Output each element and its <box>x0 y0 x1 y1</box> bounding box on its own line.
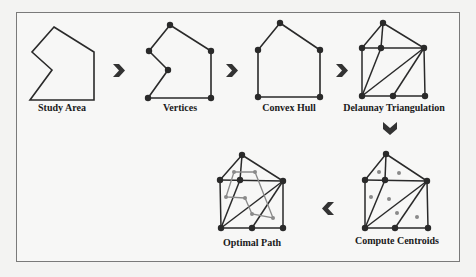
delaunay-shape <box>359 20 428 99</box>
chevron-right-icon <box>226 64 238 77</box>
vertices-shape <box>145 22 214 101</box>
convex-hull-shape <box>255 20 323 100</box>
centroids-shape <box>362 151 431 231</box>
step-label-convex-hull: Convex Hull <box>262 102 316 113</box>
centroid-points <box>369 170 419 219</box>
step-label-centroids: Compute Centroids <box>355 235 439 246</box>
study-area-shape <box>30 27 94 100</box>
path-line <box>226 172 273 218</box>
chevron-left-icon <box>322 202 334 215</box>
chevron-down-icon <box>383 122 397 135</box>
step-label-vertices: Vertices <box>163 102 197 113</box>
step-label-delaunay: Delaunay Triangulation <box>343 102 445 113</box>
optimal-path-shape <box>217 152 286 231</box>
step-label-study-area: Study Area <box>38 102 86 113</box>
chevron-right-icon <box>336 64 348 77</box>
chevron-right-icon <box>113 64 125 77</box>
step-label-optimal-path: Optimal Path <box>223 237 281 248</box>
